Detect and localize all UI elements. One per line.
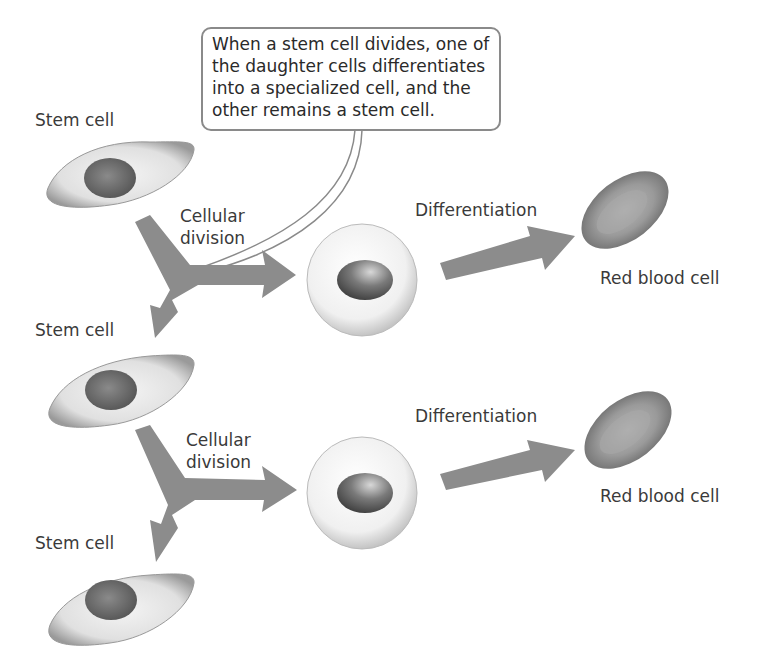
callout-text: When a stem cell divides, one of the dau… (212, 33, 490, 121)
label-division-2-line2: division (186, 452, 251, 472)
label-division-1-line2: division (180, 228, 245, 248)
progenitor-cell-2 (307, 437, 417, 549)
label-division-1-line1: Cellular (180, 206, 245, 226)
red-blood-cell-1 (567, 156, 683, 265)
stem-cell-2 (49, 355, 194, 427)
differentiation-arrow-2 (440, 440, 575, 490)
label-rbc-1: Red blood cell (600, 268, 719, 288)
label-stem-cell-3: Stem cell (35, 533, 114, 553)
callout-box: When a stem cell divides, one of the dau… (201, 27, 501, 131)
red-blood-cell-2 (570, 376, 686, 485)
progenitor-cell-1 (307, 224, 417, 336)
label-division-2-line1: Cellular (186, 430, 251, 450)
label-differentiation-2: Differentiation (415, 406, 537, 426)
label-stem-cell-2: Stem cell (35, 320, 114, 340)
stem-cell-1 (47, 142, 194, 207)
label-rbc-2: Red blood cell (600, 486, 719, 506)
label-differentiation-1: Differentiation (415, 200, 537, 220)
differentiation-arrow-1 (440, 226, 575, 280)
label-stem-cell-1: Stem cell (35, 110, 114, 130)
stem-cell-3 (49, 574, 194, 645)
